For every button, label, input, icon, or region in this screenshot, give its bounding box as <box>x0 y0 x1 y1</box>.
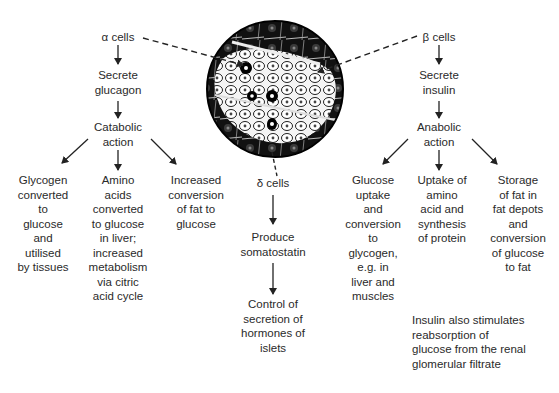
alpha-catabolic-action: Catabolic action <box>78 120 158 149</box>
alpha-cells-label: α cells <box>88 30 148 45</box>
delta-produce-somatostatin: Produce somatostatin <box>228 230 318 259</box>
beta-anabolic-action: Anabolic action <box>399 120 479 149</box>
delta-cells-label: δ cells <box>243 176 303 191</box>
beta-cells-label: β cells <box>409 30 469 45</box>
alpha-secrete-glucagon: Secrete glucagon <box>78 68 158 97</box>
insulin-reabsorption-note: Insulin also stimulates reabsorption of … <box>412 313 558 371</box>
islet-illustration <box>200 15 350 165</box>
beta-effect-glucose-uptake: Glucose uptake and conversion to glycoge… <box>333 173 413 304</box>
alpha-effect-amino-acids: Amino acids converted to glucose in live… <box>82 173 154 304</box>
beta-effect-amino-uptake: Uptake of amino acid and synthesis of pr… <box>405 173 479 246</box>
beta-effect-fat-storage: Storage of fat in fat depots and convers… <box>480 173 556 275</box>
alpha-effect-glycogen: Glycogen converted to glucose and utilis… <box>8 173 78 275</box>
delta-control-secretion: Control of secretion of hormones of isle… <box>226 297 320 355</box>
alpha-effect-fat-conversion: Increased conversion of fat to glucose <box>160 173 232 231</box>
beta-secrete-insulin: Secrete insulin <box>399 68 479 97</box>
